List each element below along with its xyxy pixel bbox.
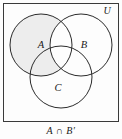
- figure-caption: A ∩ B′: [0, 123, 122, 139]
- set-label-c: C: [54, 82, 62, 93]
- set-label-b: B: [81, 39, 88, 50]
- set-label-a: A: [37, 39, 45, 50]
- venn-diagram-canvas: A B C U: [0, 0, 122, 139]
- universe-set-label: U: [103, 5, 111, 16]
- venn-diagram-figure: A B C U A ∩ B′: [0, 0, 122, 139]
